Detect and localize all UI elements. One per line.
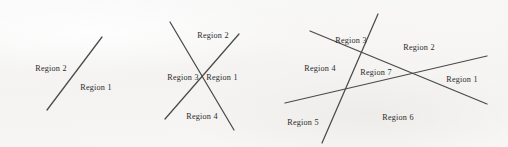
diagram-3-lines-label-region-2: Region 2 (403, 44, 434, 52)
diagram-3-lines-label-region-6: Region 6 (382, 114, 413, 122)
diagram-2-lines-label-region-2: Region 2 (197, 32, 228, 40)
diagram-3-lines-label-region-3: Region 3 (335, 37, 366, 45)
diagram-lines-layer (0, 0, 508, 147)
line-arrangement-figure: Region 2Region 1Region 2Region 3Region 1… (0, 0, 508, 147)
diagram-2-lines-label-region-1: Region 1 (206, 74, 237, 82)
diagram-1-line-label-region-2: Region 2 (35, 65, 66, 73)
diagram-1-line (47, 37, 102, 110)
diagram-3-lines-line-3 (322, 14, 378, 143)
diagram-3-lines-label-region-5: Region 5 (287, 119, 318, 127)
diagram-3-lines-label-region-7: Region 7 (360, 69, 391, 77)
diagram-1-line-label-region-1: Region 1 (80, 84, 111, 92)
diagram-2-lines-label-region-3: Region 3 (167, 74, 198, 82)
diagram-3-lines-label-region-1: Region 1 (446, 76, 477, 84)
diagram-1-line-line-1 (47, 37, 102, 110)
diagram-3-lines-label-region-4: Region 4 (304, 65, 335, 73)
diagram-2-lines-label-region-4: Region 4 (186, 113, 217, 121)
